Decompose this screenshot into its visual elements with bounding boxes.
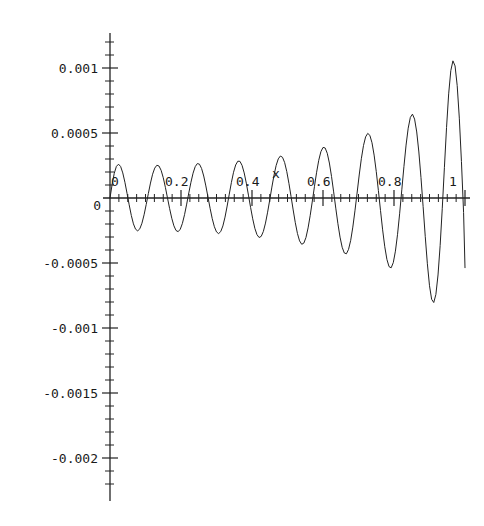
x-tick-label: 0.6 (307, 174, 330, 189)
x-axis-label: x (272, 166, 280, 181)
plot-root: 0.0010.0005-0.0005-0.001-0.0015-0.002 00… (0, 0, 484, 526)
origin-zero-label: 0 (93, 198, 101, 213)
y-axis-tick-labels: 0.0010.0005-0.0005-0.001-0.0015-0.002 (43, 61, 98, 466)
y-tick-label: -0.001 (51, 321, 98, 336)
x-tick-label: 1 (449, 174, 457, 189)
y-tick-label: 0.0005 (51, 126, 98, 141)
data-curve (110, 61, 465, 303)
x-tick-label: 0.8 (378, 174, 401, 189)
x-tick-label: 0.2 (165, 174, 188, 189)
y-tick-label: 0.001 (59, 61, 98, 76)
y-tick-label: -0.0005 (43, 256, 98, 271)
y-tick-label: -0.0015 (43, 386, 98, 401)
oscillation-chart: 0.0010.0005-0.0005-0.001-0.0015-0.002 00… (0, 0, 484, 526)
x-tick-label: 0.4 (236, 174, 260, 189)
y-tick-label: -0.002 (51, 451, 98, 466)
